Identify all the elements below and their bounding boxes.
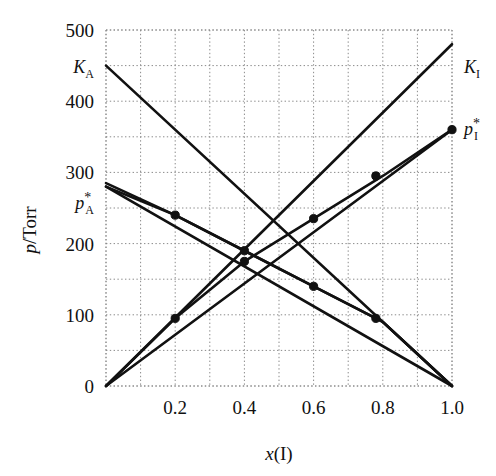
x-tick-label: 0.4 — [233, 397, 257, 418]
data-marker — [372, 314, 380, 322]
y-tick-label: 500 — [66, 20, 95, 41]
x-axis-title: x(I) — [264, 443, 292, 465]
x-tick-label: 0.2 — [163, 397, 187, 418]
y-tick-label: 300 — [66, 162, 95, 183]
data-marker — [448, 126, 456, 134]
data-marker — [310, 282, 318, 290]
x-tick-label: 0.8 — [371, 397, 395, 418]
data-marker — [310, 215, 318, 223]
x-tick-label: 1.0 — [440, 397, 464, 418]
svg-text:p*A: p*A — [73, 190, 94, 217]
chart-svg: 0100200300400500 0.20.40.60.81.0 KAKIp*A… — [0, 0, 496, 476]
label-p-i-star: p*I — [462, 116, 480, 143]
data-marker — [240, 247, 248, 255]
svg-text:p*I: p*I — [462, 116, 480, 143]
data-marker — [171, 211, 179, 219]
y-tick-label: 100 — [66, 305, 95, 326]
vapour-pressure-chart: 0100200300400500 0.20.40.60.81.0 KAKIp*A… — [0, 0, 496, 476]
data-marker — [372, 172, 380, 180]
y-tick-label: 400 — [66, 91, 95, 112]
x-tick-label: 0.6 — [302, 397, 326, 418]
y-axis-title: p/Torr — [19, 206, 40, 256]
label-p-a-star: p*A — [73, 190, 94, 217]
data-marker — [240, 257, 248, 265]
y-tick-label: 200 — [66, 234, 95, 255]
data-marker — [171, 314, 179, 322]
y-tick-label: 0 — [85, 376, 95, 397]
